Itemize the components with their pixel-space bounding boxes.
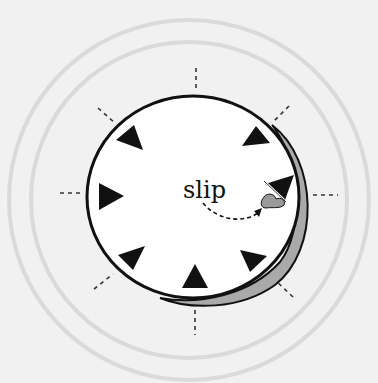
slip-diagram: slip [0,0,378,383]
slip-label: slip [183,176,226,204]
